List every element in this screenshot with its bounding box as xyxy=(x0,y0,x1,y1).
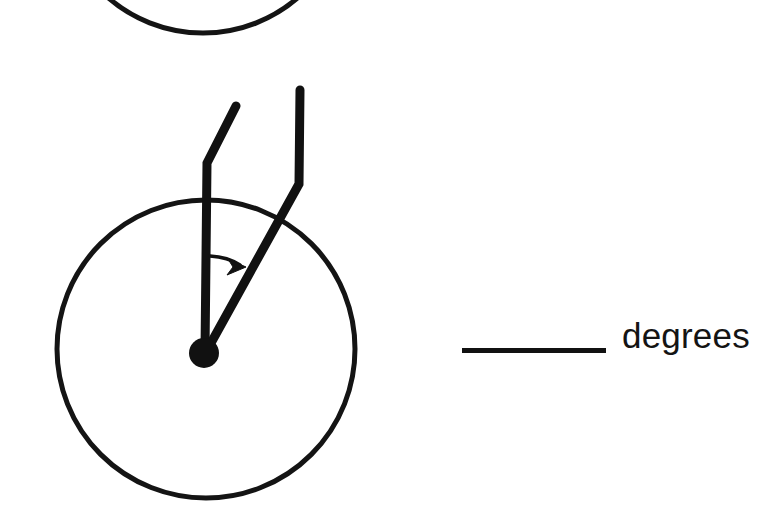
worksheet-page: degrees xyxy=(0,0,779,518)
angle-direction-arrow xyxy=(210,256,246,275)
angle-figure xyxy=(0,0,779,518)
previous-problem-circle-arc xyxy=(58,0,348,33)
answer-blank-input[interactable] xyxy=(462,348,606,353)
answer-unit-label: degrees xyxy=(622,318,750,353)
answer-area: degrees xyxy=(462,318,750,353)
angle-vertex-dot xyxy=(189,338,219,368)
